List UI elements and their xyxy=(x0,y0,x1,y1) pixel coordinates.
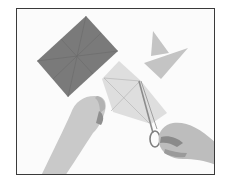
photo-scene xyxy=(17,9,215,175)
photo-frame xyxy=(16,8,215,175)
